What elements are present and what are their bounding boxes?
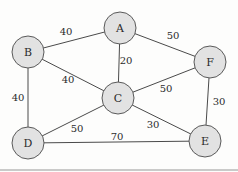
weight-f-e: 30 <box>213 96 226 107</box>
node-e: E <box>189 125 221 157</box>
weight-c-f: 50 <box>160 83 173 94</box>
node-b-label: B <box>24 46 32 59</box>
weight-a-f: 50 <box>167 30 180 41</box>
node-c-label: C <box>114 92 122 105</box>
weight-a-b: 40 <box>60 26 73 37</box>
node-c: C <box>102 82 134 114</box>
weight-b-c: 40 <box>62 74 75 85</box>
weight-a-c: 20 <box>120 55 133 66</box>
weight-d-e: 70 <box>111 131 124 142</box>
weight-c-e: 30 <box>147 119 160 130</box>
weight-b-d: 40 <box>12 92 25 103</box>
node-a: A <box>104 12 136 44</box>
node-d: D <box>12 127 44 159</box>
node-f-label: F <box>206 56 214 69</box>
node-b: B <box>12 36 44 68</box>
node-e-label: E <box>201 135 209 148</box>
weight-c-d: 50 <box>71 123 84 134</box>
node-d-label: D <box>24 137 33 150</box>
graph-diagram: 40 20 50 40 40 50 50 30 70 30 A B C F D … <box>0 0 238 172</box>
node-a-label: A <box>115 22 125 35</box>
node-f: F <box>194 46 226 78</box>
